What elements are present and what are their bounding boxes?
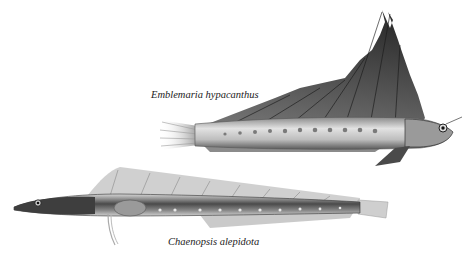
dorsal-sail-fin — [205, 10, 425, 125]
species-caption-emblemaria: Emblemaria hypacanthus — [151, 89, 259, 100]
fish-emblemaria-hypacanthus — [160, 10, 462, 166]
species-caption-chaenopsis: Chaenopsis alepidota — [168, 236, 259, 247]
illustration-plate: Emblemaria hypacanthus Chaenopsis alepid… — [0, 0, 475, 265]
caudal-fin — [358, 200, 388, 218]
fish-illustrations — [0, 0, 475, 265]
fish-chaenopsis-alepidota — [14, 167, 388, 245]
